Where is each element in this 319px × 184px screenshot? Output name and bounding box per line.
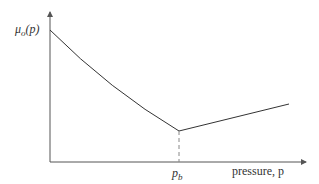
y-axis-label: μo(p) xyxy=(15,22,40,38)
viscosity-pressure-diagram xyxy=(0,0,319,184)
viscosity-curve-decreasing xyxy=(50,30,179,131)
breakpoint-label: pb xyxy=(172,166,183,182)
viscosity-line-increasing xyxy=(179,104,289,131)
x-axis-label: pressure, p xyxy=(232,164,284,179)
